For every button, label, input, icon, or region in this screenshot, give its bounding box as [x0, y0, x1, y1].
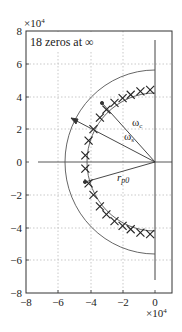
svg-text:−8: −8	[20, 296, 32, 308]
omega-s-line	[71, 118, 155, 162]
svg-text:−4: −4	[85, 296, 97, 308]
y-tick-labels: 8 6 4 2 0 −2 −4 −6 −8	[10, 25, 22, 299]
svg-text:−6: −6	[52, 296, 64, 308]
svg-text:−2: −2	[10, 189, 22, 201]
annotation-text: 18 zeros at ∞	[30, 35, 94, 49]
x-tick-labels: −8 −6 −4 −2 0	[20, 296, 158, 308]
svg-text:8: 8	[17, 25, 23, 37]
svg-text:−6: −6	[10, 254, 22, 266]
y-exponent-label: ×104	[24, 17, 45, 29]
svg-text:6: 6	[17, 58, 23, 70]
svg-text:4: 4	[17, 91, 23, 103]
omega-c-label: ωc	[132, 116, 142, 130]
svg-text:0: 0	[17, 156, 23, 168]
svg-text:−4: −4	[10, 222, 22, 234]
rp0-label: rp0	[117, 171, 129, 185]
svg-text:−2: −2	[117, 296, 129, 308]
arrow-head-icon	[71, 118, 78, 124]
x-exponent-label: ×104	[146, 307, 167, 319]
pole-zero-plot: 18 zeros at ∞ ωc ωs rp0 ×104 ×104 8 6 4 …	[0, 0, 182, 332]
svg-text:0: 0	[152, 296, 158, 308]
svg-text:2: 2	[17, 123, 23, 135]
omega-s-label: ωs	[124, 130, 134, 144]
